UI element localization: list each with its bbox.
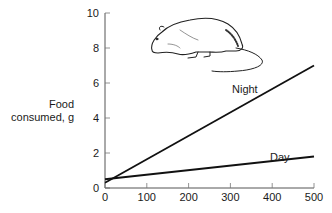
y-tick-label: 10	[87, 7, 99, 19]
y-tick-label: 8	[93, 42, 99, 54]
rat-illustration-icon	[152, 18, 263, 71]
y-tick-label: 4	[93, 112, 99, 124]
x-tick-label: 400	[263, 191, 281, 203]
x-tick-label: 300	[221, 191, 239, 203]
x-tick-label: 500	[305, 191, 323, 203]
y-tick-label: 2	[93, 147, 99, 159]
y-axis-label-line1: Food	[11, 98, 74, 111]
y-axis: 0246810	[87, 7, 110, 194]
x-axis: 0100200300400500	[102, 183, 323, 203]
night-series-line	[105, 66, 314, 183]
x-tick-label: 100	[138, 191, 156, 203]
day-series-label: Day	[270, 151, 290, 163]
x-tick-label: 0	[102, 191, 108, 203]
x-tick-label: 200	[179, 191, 197, 203]
y-tick-label: 6	[93, 77, 99, 89]
y-tick-label: 0	[93, 182, 99, 194]
y-axis-label-line2: consumed, g	[11, 111, 74, 124]
y-axis-label: Food consumed, g	[11, 98, 74, 124]
night-series-label: Night	[232, 83, 258, 95]
